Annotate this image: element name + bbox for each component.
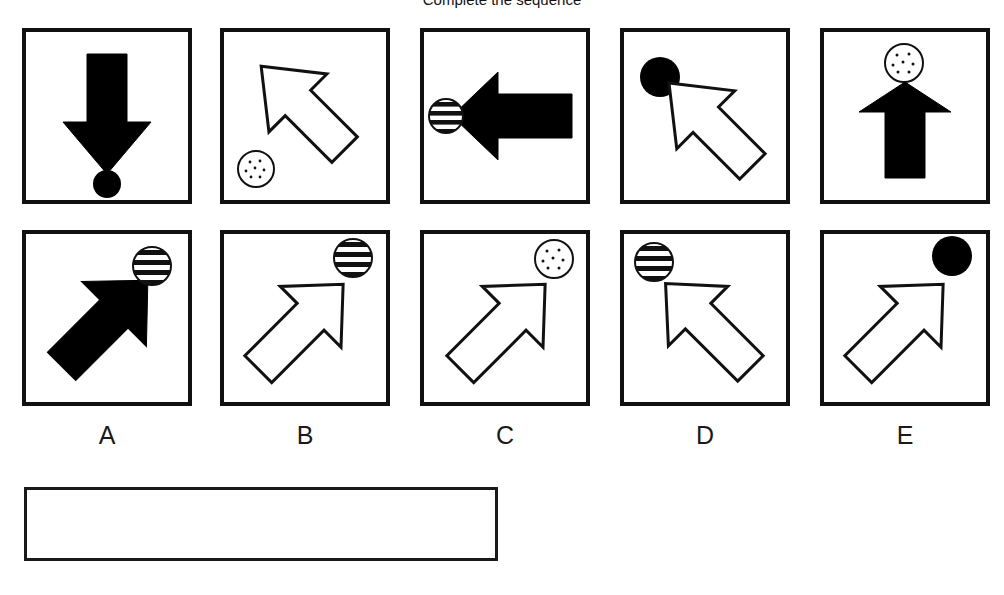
dotted-circle-icon xyxy=(238,151,274,187)
option-label-d: D xyxy=(620,418,790,452)
stimulus-panel-2-stage xyxy=(224,32,386,200)
stimulus-panel-5-stage xyxy=(824,32,986,200)
solid-circle-icon xyxy=(93,170,121,198)
stimulus-panel-1-stage xyxy=(26,32,188,200)
option-label-a: A xyxy=(22,418,192,452)
answer-input-box[interactable] xyxy=(24,487,498,561)
option-label-e: E xyxy=(820,418,990,452)
option-label-b: B xyxy=(220,418,390,452)
arrow-left-icon xyxy=(452,72,572,160)
stimulus-panel-4 xyxy=(620,28,790,204)
option-panel-e-stage xyxy=(824,234,986,402)
stimulus-panel-4-stage xyxy=(624,32,786,200)
striped-circle-icon xyxy=(633,243,675,281)
stimulus-panel-3 xyxy=(420,28,590,204)
stimulus-panel-3-stage xyxy=(424,32,586,200)
solid-circle-icon xyxy=(932,236,972,276)
arrow-up-icon xyxy=(859,82,951,178)
option-panel-d[interactable] xyxy=(620,230,790,406)
dotted-circle-icon xyxy=(885,44,923,82)
option-panel-a[interactable] xyxy=(22,230,192,406)
option-panel-d-stage xyxy=(624,234,786,402)
striped-circle-icon xyxy=(427,99,465,134)
stimulus-panel-2 xyxy=(220,28,390,204)
test-page: Complete the sequence xyxy=(0,0,1004,595)
option-panel-c-stage xyxy=(424,234,586,402)
option-panel-c[interactable] xyxy=(420,230,590,406)
option-label-c: C xyxy=(420,418,590,452)
option-labels: A B C D E xyxy=(0,418,1004,458)
striped-circle-icon xyxy=(332,239,374,277)
dotted-circle-icon xyxy=(535,240,573,278)
option-panel-a-stage xyxy=(26,234,188,402)
stimulus-panel-1 xyxy=(22,28,192,204)
striped-circle-icon xyxy=(131,247,173,285)
arrow-down-icon xyxy=(63,54,151,174)
stimulus-row xyxy=(0,28,1004,208)
page-title-strip: Complete the sequence xyxy=(0,0,1004,14)
options-row xyxy=(0,230,1004,410)
option-panel-e[interactable] xyxy=(820,230,990,406)
page-title: Complete the sequence xyxy=(0,0,1004,8)
option-panel-b-stage xyxy=(224,234,386,402)
option-panel-b[interactable] xyxy=(220,230,390,406)
stimulus-panel-5 xyxy=(820,28,990,204)
